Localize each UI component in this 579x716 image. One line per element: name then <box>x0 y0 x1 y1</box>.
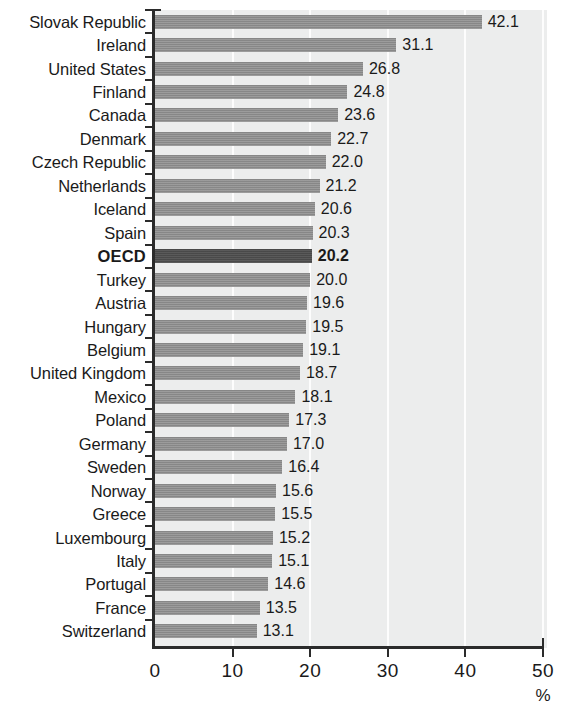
y-axis-tick <box>145 32 153 34</box>
bar-row: Spain20.3 <box>0 221 579 244</box>
category-label: France <box>95 600 146 617</box>
y-axis-tick <box>145 337 153 339</box>
bar-row: Belgium19.1 <box>0 338 579 361</box>
y-axis-tick <box>145 267 153 269</box>
category-label: Hungary <box>84 318 146 335</box>
bar-row: Greece15.5 <box>0 502 579 525</box>
bar <box>155 601 260 615</box>
bar-row: Netherlands21.2 <box>0 174 579 197</box>
bar-row: Sweden16.4 <box>0 456 579 479</box>
category-label: Belgium <box>87 342 146 359</box>
y-axis-tick <box>145 572 153 574</box>
bar <box>155 577 268 591</box>
y-axis-tick <box>145 408 153 410</box>
bar-value-label: 15.6 <box>282 483 313 499</box>
bar <box>155 343 303 357</box>
bar-row: Mexico18.1 <box>0 385 579 408</box>
bar-row: United States26.8 <box>0 57 579 80</box>
bar-row: Switzerland13.1 <box>0 620 579 643</box>
bar <box>155 273 310 287</box>
category-label: United Kingdom <box>30 365 146 382</box>
bar-value-label: 22.0 <box>332 154 363 170</box>
bar-row: Ireland31.1 <box>0 33 579 56</box>
bar-row: Turkey20.0 <box>0 268 579 291</box>
x-axis-tick-10 <box>232 649 234 657</box>
bar-row: Germany17.0 <box>0 432 579 455</box>
bar-value-label: 26.8 <box>369 61 400 77</box>
bar <box>155 554 272 568</box>
x-axis-tick-label: 20 <box>299 660 321 682</box>
y-axis-tick <box>145 501 153 503</box>
bar-row: Canada23.6 <box>0 104 579 127</box>
x-axis-tick-label: 0 <box>149 660 160 682</box>
bar-value-label: 20.2 <box>318 248 349 264</box>
y-axis-tick <box>145 619 153 621</box>
bar <box>155 624 257 638</box>
percent-unit-label: % <box>535 686 550 706</box>
x-axis-tick-label: 30 <box>377 660 399 682</box>
bar <box>155 366 300 380</box>
x-axis-line <box>152 646 544 649</box>
bar <box>155 132 331 146</box>
bar-value-label: 17.3 <box>295 412 326 428</box>
bar-value-label: 31.1 <box>402 37 433 53</box>
category-label: Finland <box>93 84 146 101</box>
x-axis-tick-30 <box>387 649 389 657</box>
x-axis-tick-label: 50 <box>532 660 554 682</box>
y-axis-tick <box>145 173 153 175</box>
bar-value-label: 15.1 <box>278 553 309 569</box>
y-axis-tick <box>145 150 153 152</box>
y-axis-tick <box>145 56 153 58</box>
category-label: Spain <box>104 224 146 241</box>
bar <box>155 38 396 52</box>
category-label: Norway <box>91 482 146 499</box>
bar <box>155 155 326 169</box>
y-axis-tick <box>145 525 153 527</box>
bar-value-label: 18.1 <box>301 389 332 405</box>
bar <box>155 413 289 427</box>
bar-chart: Slovak Republic42.1Ireland31.1United Sta… <box>0 0 579 716</box>
y-axis-tick <box>145 314 153 316</box>
bar <box>155 484 276 498</box>
bar-row: Iceland20.6 <box>0 198 579 221</box>
bar-row: Slovak Republic42.1 <box>0 10 579 33</box>
y-axis-tick <box>145 103 153 105</box>
bar <box>155 62 363 76</box>
category-label: Ireland <box>96 37 146 54</box>
bar-value-label: 20.6 <box>321 201 352 217</box>
category-label: Netherlands <box>58 178 146 195</box>
category-label: Luxembourg <box>55 529 146 546</box>
x-axis-tick-label: 10 <box>222 660 244 682</box>
category-label: Italy <box>116 553 146 570</box>
bar-value-label: 21.2 <box>326 178 357 194</box>
bar-row: Denmark22.7 <box>0 127 579 150</box>
bar-row: Austria19.6 <box>0 291 579 314</box>
category-label: Czech Republic <box>32 154 146 171</box>
bar <box>155 226 313 240</box>
category-label: Germany <box>79 436 146 453</box>
y-axis-tick <box>145 455 153 457</box>
bar-row: Hungary19.5 <box>0 315 579 338</box>
x-axis-tick-40 <box>464 649 466 657</box>
bar <box>155 202 315 216</box>
bar-value-label: 18.7 <box>306 365 337 381</box>
bar-value-label: 22.7 <box>337 131 368 147</box>
bar-row: United Kingdom18.7 <box>0 362 579 385</box>
x-axis-tick-label: 40 <box>454 660 476 682</box>
bar <box>155 390 295 404</box>
bar-row: OECD20.2 <box>0 245 579 268</box>
bar-row: France13.5 <box>0 596 579 619</box>
bar-value-label: 15.2 <box>279 530 310 546</box>
bar <box>155 108 338 122</box>
bar <box>155 179 320 193</box>
y-axis-tick <box>145 244 153 246</box>
y-axis-tick <box>145 431 153 433</box>
bar-row: Czech Republic22.0 <box>0 151 579 174</box>
category-label: Turkey <box>97 271 146 288</box>
y-axis-tick <box>145 478 153 480</box>
bar <box>155 437 287 451</box>
bar <box>155 320 306 334</box>
y-axis-tick <box>145 126 153 128</box>
category-label: OECD <box>98 248 146 265</box>
bar-row: Finland24.8 <box>0 80 579 103</box>
